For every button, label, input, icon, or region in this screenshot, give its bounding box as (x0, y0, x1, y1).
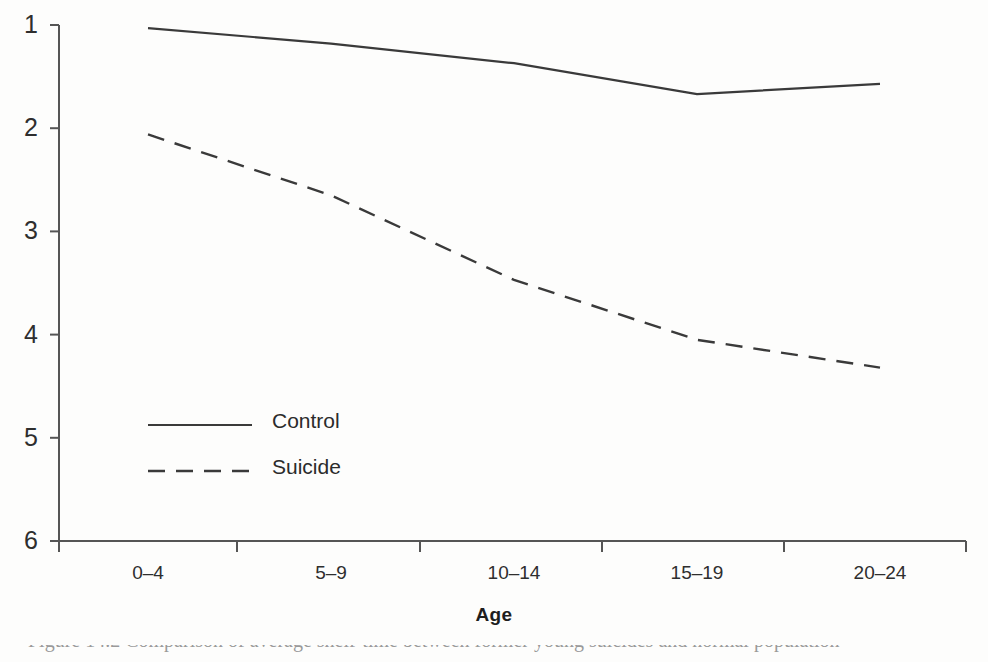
y-axis-tick-label: 3 (4, 218, 38, 243)
y-axis-tick-label: 5 (4, 425, 38, 450)
y-axis-tick-label: 6 (4, 528, 38, 553)
y-axis-tick-label: 1 (4, 12, 38, 37)
y-axis-ticks (50, 25, 59, 541)
legend-swatch-dashed-icon (148, 464, 252, 478)
legend-swatch-solid-icon (148, 418, 252, 432)
x-axis-title: Age (0, 604, 988, 626)
x-axis-tick-label: 0–4 (88, 563, 208, 582)
figure-caption-strip: Figure 14.2 Comparison of average shelf-… (0, 645, 988, 662)
y-axis-tick-label: 2 (4, 115, 38, 140)
x-axis-ticks (59, 541, 966, 552)
series-line-control (148, 28, 880, 94)
x-axis-tick-label: 15–19 (637, 563, 757, 582)
x-axis-tick-label: 20–24 (820, 563, 940, 582)
figure-caption-text: Figure 14.2 Comparison of average shelf-… (28, 645, 958, 653)
series-line-suicide (148, 134, 880, 367)
legend-label-control: Control (272, 408, 340, 434)
legend-label-suicide: Suicide (272, 454, 341, 480)
y-axis-tick-label: 4 (4, 322, 38, 347)
x-axis-tick-label: 10–14 (454, 563, 574, 582)
figure-container: 654321 0–45–910–1415–1920–24 Control Sui… (0, 0, 988, 662)
x-axis-tick-label: 5–9 (271, 563, 391, 582)
